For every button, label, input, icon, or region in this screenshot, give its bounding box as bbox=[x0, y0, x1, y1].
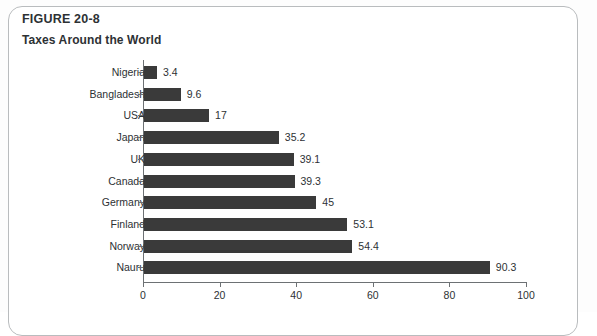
bar-row: UK39.1 bbox=[0, 149, 597, 171]
category-axis-tick bbox=[138, 137, 143, 138]
bar-value-label: 90.3 bbox=[496, 261, 516, 274]
bar-value-label: 3.4 bbox=[163, 66, 178, 79]
bar bbox=[144, 88, 181, 101]
bar-value-label: 53.1 bbox=[353, 218, 373, 231]
bar-value-label: 39.1 bbox=[300, 153, 320, 166]
category-axis-tick bbox=[138, 94, 143, 95]
x-axis-tick bbox=[526, 282, 527, 287]
category-axis-tick bbox=[138, 246, 143, 247]
x-axis-tick bbox=[449, 282, 450, 287]
bar-value-label: 54.4 bbox=[358, 240, 378, 253]
category-axis-tick bbox=[138, 224, 143, 225]
bar-value-label: 9.6 bbox=[187, 88, 202, 101]
bar-row: Nigeria3.4 bbox=[0, 62, 597, 84]
x-axis-tick bbox=[220, 282, 221, 287]
bar bbox=[144, 196, 316, 209]
category-axis-tick bbox=[138, 72, 143, 73]
bar-value-label: 39.3 bbox=[301, 175, 321, 188]
bar-row: Finland53.1 bbox=[0, 214, 597, 236]
bar-row: Nauru90.3 bbox=[0, 257, 597, 279]
bar-value-label: 45 bbox=[322, 196, 334, 209]
category-axis-tick bbox=[138, 202, 143, 203]
bar-row: Germany45 bbox=[0, 192, 597, 214]
x-axis-tick-label: 20 bbox=[214, 289, 226, 301]
x-axis-tick-label: 0 bbox=[140, 289, 146, 301]
bar bbox=[144, 175, 295, 188]
bar-row: Canada39.3 bbox=[0, 171, 597, 193]
bar-row: Bangladesh9.6 bbox=[0, 84, 597, 106]
x-axis-tick bbox=[373, 282, 374, 287]
x-axis-tick-label: 40 bbox=[290, 289, 302, 301]
category-label: Bangladesh bbox=[90, 88, 145, 100]
bar-value-label: 17 bbox=[215, 109, 227, 122]
x-axis-tick bbox=[143, 282, 144, 287]
bar-row: Japan35.2 bbox=[0, 127, 597, 149]
bar bbox=[144, 131, 279, 144]
x-axis-tick-label: 60 bbox=[367, 289, 379, 301]
bar bbox=[144, 240, 352, 253]
x-axis-tick-label: 100 bbox=[517, 289, 535, 301]
bar-row: USA17 bbox=[0, 105, 597, 127]
bar bbox=[144, 218, 347, 231]
x-axis-tick-label: 80 bbox=[444, 289, 456, 301]
bar bbox=[144, 153, 294, 166]
category-axis-tick bbox=[138, 181, 143, 182]
bar-row: Norway54.4 bbox=[0, 236, 597, 258]
bar-value-label: 35.2 bbox=[285, 131, 305, 144]
x-axis-line bbox=[143, 282, 526, 283]
bar bbox=[144, 109, 209, 122]
category-axis-tick bbox=[138, 267, 143, 268]
x-axis-tick bbox=[296, 282, 297, 287]
category-axis-tick bbox=[138, 159, 143, 160]
category-axis-tick bbox=[138, 115, 143, 116]
bar bbox=[144, 261, 490, 274]
bar bbox=[144, 66, 157, 79]
